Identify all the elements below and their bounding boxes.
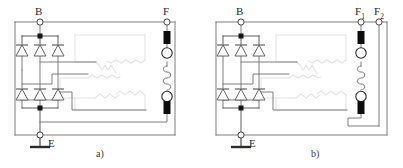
diode-group-upper-a: [16, 45, 64, 56]
diode-u2-b: [235, 45, 247, 56]
phase-tap-b1: [223, 74, 289, 84]
terminal-label-b-b: B: [236, 6, 243, 17]
terminal-e-a: [37, 132, 43, 138]
schematic-b: [201, 0, 403, 168]
terminal-label-f1-b: F1: [355, 6, 365, 20]
field-coil-b: [357, 66, 365, 90]
diode-u3-b: [253, 45, 265, 56]
phase-tap-a1: [22, 74, 88, 84]
terminal-label-f1-subscript: 1: [361, 12, 365, 21]
brush-bottom-b: [358, 101, 365, 114]
junction-upper-a: [38, 34, 43, 39]
panel-caption-b: b): [311, 148, 319, 159]
f2-return-b: [348, 112, 379, 126]
slip-ring-top-b: [356, 48, 366, 58]
terminal-e-b: [238, 132, 244, 138]
terminal-label-e-b: E: [249, 138, 256, 149]
field-coil-a: [163, 66, 171, 90]
diode-l1-a: [16, 89, 28, 100]
terminal-label-e-a: E: [48, 138, 55, 149]
phase-tap-a3: [58, 92, 146, 110]
diode-u1-a: [16, 45, 28, 56]
slip-ring-top-a: [162, 48, 172, 58]
stator-winding-b: [261, 35, 346, 110]
slip-ring-bottom-b: [356, 91, 366, 101]
brush-top-a: [164, 31, 171, 44]
terminal-b-b: [238, 19, 244, 25]
diode-group-upper-b: [217, 45, 265, 56]
diode-l1-b: [217, 89, 229, 100]
panel-a: B F E a): [0, 0, 202, 168]
terminal-label-f2-subscript: 2: [380, 12, 384, 21]
panel-b: B F1 F2 E b): [201, 0, 403, 168]
diode-l3-a: [52, 89, 64, 100]
diode-group-lower-b: [217, 89, 265, 100]
terminal-label-f2-b: F2: [374, 6, 384, 20]
ground-icon-b: [231, 138, 251, 147]
ground-icon-a: [30, 138, 50, 147]
terminal-label-b-a: B: [35, 6, 42, 17]
terminal-f-a: [164, 19, 170, 25]
brush-bottom-a: [164, 101, 171, 114]
junction-lower-b: [239, 106, 244, 111]
terminal-label-f-a: F: [163, 6, 169, 17]
phase-tap-b3: [259, 92, 347, 110]
diode-l3-b: [253, 89, 265, 100]
diode-l2-b: [235, 89, 247, 100]
figure-canvas: B F E a): [0, 0, 403, 168]
panel-caption-a: a): [96, 148, 104, 159]
junction-lower-a: [38, 106, 43, 111]
schematic-a: [0, 0, 202, 168]
diode-u3-a: [52, 45, 64, 56]
brush-top-b: [358, 31, 365, 44]
diode-group-lower-a: [16, 89, 64, 100]
diode-u1-b: [217, 45, 229, 56]
diode-u2-a: [34, 45, 46, 56]
stator-winding-a: [60, 35, 145, 110]
diode-l2-a: [34, 89, 46, 100]
slip-ring-bottom-a: [162, 91, 172, 101]
terminal-b-a: [37, 19, 43, 25]
junction-upper-b: [239, 34, 244, 39]
field-return-a: [40, 112, 167, 122]
